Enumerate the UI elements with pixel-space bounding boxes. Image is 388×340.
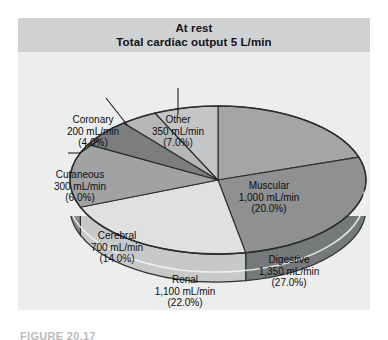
digestive-name: Digestive xyxy=(244,254,334,266)
slice-label-muscular: Muscular 1,000 mL/min (20.0%) xyxy=(226,180,312,215)
muscular-name: Muscular xyxy=(226,180,312,192)
other-name: Other xyxy=(140,114,216,126)
cutaneous-pct: (6.0%) xyxy=(42,192,118,204)
pie-chart-plot-area: Coronary 200 mL/min (4.0%) Other 350 mL/… xyxy=(18,52,370,310)
digestive-flow: 1,350 mL/min xyxy=(244,266,334,278)
chart-title-line-1: At rest xyxy=(175,22,212,35)
coronary-name: Coronary xyxy=(54,114,132,126)
other-pct: (7.0%) xyxy=(140,137,216,149)
slice-label-cerebral: Cerebral 700 mL/min (14.0%) xyxy=(76,230,158,265)
figure-caption: FIGURE 20.17 xyxy=(20,330,96,340)
coronary-flow: 200 mL/min xyxy=(54,126,132,138)
muscular-pct: (20.0%) xyxy=(226,203,312,215)
slice-label-cutaneous: Cutaneous 300 mL/min (6.0%) xyxy=(42,169,118,204)
cutaneous-name: Cutaneous xyxy=(42,169,118,181)
renal-pct: (22.0%) xyxy=(140,297,230,309)
slice-label-other: Other 350 mL/min (7.0%) xyxy=(140,114,216,149)
cerebral-flow: 700 mL/min xyxy=(76,242,158,254)
other-flow: 350 mL/min xyxy=(140,126,216,138)
coronary-pct: (4.0%) xyxy=(54,137,132,149)
renal-flow: 1,100 mL/min xyxy=(140,286,230,298)
chart-title-line-2: Total cardiac output 5 L/min xyxy=(116,36,271,49)
muscular-flow: 1,000 mL/min xyxy=(226,192,312,204)
chart-title-band: At rest Total cardiac output 5 L/min xyxy=(18,18,370,52)
cerebral-pct: (14.0%) xyxy=(76,253,158,265)
slice-label-coronary: Coronary 200 mL/min (4.0%) xyxy=(54,114,132,149)
renal-name: Renal xyxy=(140,274,230,286)
cutaneous-flow: 300 mL/min xyxy=(42,181,118,193)
slice-label-digestive: Digestive 1,350 mL/min (27.0%) xyxy=(244,254,334,289)
cerebral-name: Cerebral xyxy=(76,230,158,242)
slice-label-renal: Renal 1,100 mL/min (22.0%) xyxy=(140,274,230,309)
figure-panel: At rest Total cardiac output 5 L/min xyxy=(18,18,370,310)
digestive-pct: (27.0%) xyxy=(244,277,334,289)
